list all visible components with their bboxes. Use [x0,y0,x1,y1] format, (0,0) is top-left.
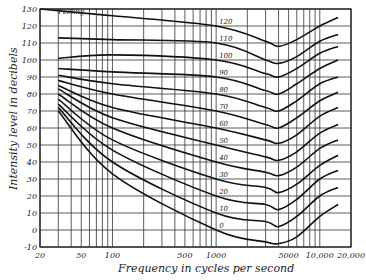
y-tick-label: 20 [26,192,37,201]
curve-label: 70 [219,103,228,111]
curve-label: 100 [219,52,233,60]
curve-label: 120 [219,18,233,26]
y-tick-label: 40 [26,158,37,167]
y-tick-label: 80 [27,90,37,99]
x-axis-ticks: 20501005001000500010,00020,000 [34,251,365,260]
curve-label: 40 [218,154,228,162]
y-tick-label: 100 [22,56,37,65]
curve-label: 60 [219,120,228,128]
loudness-curve-110 [58,35,338,64]
curve-label: 30 [219,171,228,179]
x-tick-label: 1000 [206,251,226,260]
curve-label: 10 [219,205,228,213]
x-tick-label: 20 [34,251,45,260]
loudness-curve-80 [58,75,338,111]
y-tick-label: 50 [27,141,37,150]
curve-label: 50 [219,137,228,145]
loudness-curves [40,9,338,244]
feeling-annotation: Feeling [57,8,85,16]
y-tick-label: 60 [27,124,37,133]
y-tick-label: 30 [27,175,37,184]
loudness-curve-0 [58,111,338,244]
curve-label: 20 [218,188,228,196]
x-axis-label: Frequency in cycles per second [117,262,294,275]
x-tick-label: 5000 [278,251,298,260]
loudness-curve-100 [58,46,338,77]
y-tick-label: 120 [22,22,37,31]
y-tick-label: 0 [32,226,37,235]
curve-label: 110 [219,35,233,43]
curve-label: 0 [219,222,224,230]
y-axis-ticks: 1301201101009080706050403020100-10 [22,5,37,252]
curve-label: 90 [219,69,228,77]
x-tick-label: 500 [177,251,192,260]
x-tick-label: 10,000 [306,251,334,260]
y-tick-label: 10 [27,209,37,218]
y-tick-label: 130 [22,5,37,14]
equal-loudness-chart: 1201101009080706050403020100 13012011010… [0,0,366,280]
x-tick-label: 100 [105,251,120,260]
y-tick-label: 70 [27,107,37,116]
y-tick-label: 110 [22,39,37,48]
x-tick-label: 50 [76,251,86,260]
x-tick-label: 20,000 [336,251,365,260]
curve-label: 80 [219,86,228,94]
y-tick-label: 90 [27,73,37,82]
y-axis-label: Intensity level in decibels [7,47,20,191]
